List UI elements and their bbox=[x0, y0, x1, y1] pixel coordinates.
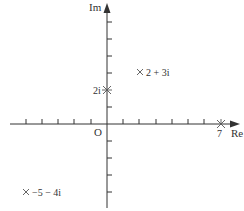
imaginary-axis-label: Im bbox=[89, 1, 102, 13]
complex-plane-diagram: Im Re O 2 + 3i 2i 7 −5 − 4i bbox=[0, 0, 244, 211]
point-2-plus-3i: 2 + 3i bbox=[137, 67, 170, 78]
point-minus-5-minus-4i: −5 − 4i bbox=[23, 187, 61, 198]
real-axis bbox=[10, 121, 240, 128]
cross-marker-icon bbox=[137, 69, 143, 75]
imaginary-axis bbox=[104, 3, 111, 208]
real-axis-ticks bbox=[26, 119, 204, 124]
imaginary-axis-ticks bbox=[107, 22, 112, 192]
point-label: 2 + 3i bbox=[146, 67, 170, 78]
point-7: 7 bbox=[217, 119, 225, 139]
cross-marker-icon bbox=[23, 189, 29, 195]
point-label: −5 − 4i bbox=[32, 187, 61, 198]
real-axis-label: Re bbox=[231, 127, 243, 139]
point-2i: 2i bbox=[93, 85, 112, 96]
point-label: 2i bbox=[93, 85, 101, 96]
point-label: 7 bbox=[217, 128, 222, 139]
imaginary-axis-arrow-icon bbox=[104, 3, 111, 13]
origin-label: O bbox=[94, 126, 102, 138]
